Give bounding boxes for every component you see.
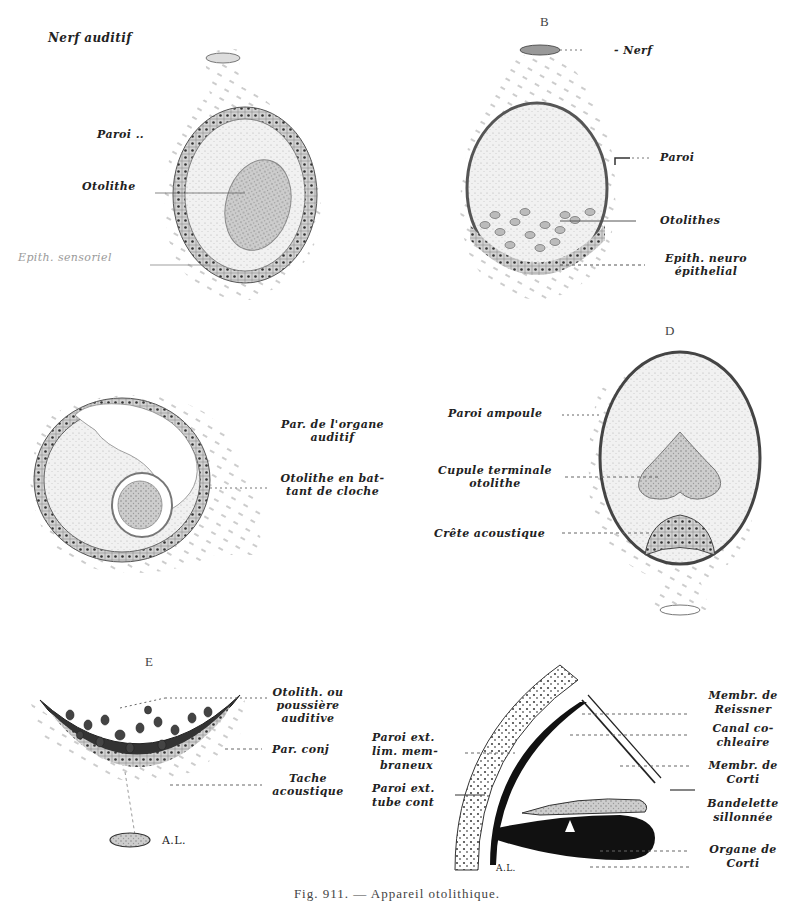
label-f-corti-organ-line1: Organe de	[692, 843, 794, 857]
label-d-crest: Crête acoustique	[434, 527, 545, 540]
label-f-outer-wall-tube-line1: Paroi ext.	[372, 782, 435, 796]
label-b-epithelium: Epith. neuro épithelial	[656, 252, 756, 278]
label-f-corti-organ: Organe de Corti	[692, 843, 794, 871]
label-e-macula: Tache acoustique	[268, 772, 348, 798]
label-f-canal-line2: chleaire	[692, 736, 794, 750]
label-f-outer-wall-membranous: Paroi ext. lim. mem- braneux	[372, 731, 438, 773]
label-a-epithelium: Epith. sensoriel	[18, 251, 112, 264]
label-e-otolith-line3: auditive	[268, 712, 348, 725]
label-d-cupula-line2: otolithe	[425, 477, 565, 490]
label-e-macula-line1: Tache	[268, 772, 348, 785]
label-b-epithelium-line2: épithelial	[656, 265, 756, 278]
label-b-epithelium-line1: Epith. neuro	[656, 252, 756, 265]
label-f-corti-membrane-line2: Corti	[692, 773, 794, 787]
label-f-band-line2: sillonnée	[692, 811, 794, 825]
label-b-nerve: - Nerf	[614, 44, 652, 57]
label-f-outer-wall-tube: Paroi ext. tube cont	[372, 782, 435, 810]
label-f-corti-membrane-line1: Membr. de	[692, 759, 794, 773]
panel-b-letter: B	[540, 14, 549, 30]
label-e-nerve-mark: A.L.	[162, 834, 186, 847]
figure-caption: Fig. 911. — Appareil otolithique.	[0, 886, 794, 902]
label-a-otolith: Otolithe	[82, 180, 136, 193]
label-f-corti-organ-line2: Corti	[692, 857, 794, 871]
panel-d-drawing	[562, 352, 760, 615]
label-f-band: Bandelette sillonnée	[692, 797, 794, 825]
label-c-otolith-line2: tant de cloche	[270, 485, 395, 498]
label-f-outer-wall-membranous-line2: lim. mem-	[372, 745, 438, 759]
label-f-mark: A.L.	[496, 862, 516, 875]
label-f-canal: Canal co- chleaire	[692, 722, 794, 750]
label-f-band-line1: Bandelette	[692, 797, 794, 811]
label-f-canal-line1: Canal co-	[692, 722, 794, 736]
label-b-wall: Paroi	[660, 151, 694, 164]
label-a-wall: Paroi ..	[97, 128, 144, 141]
label-c-wall: Par. de l'organe auditif	[270, 418, 395, 444]
label-f-reissner-line1: Membr. de	[692, 689, 794, 703]
label-e-otolith: Otolith. ou poussière auditive	[268, 686, 348, 725]
label-d-cupula-line1: Cupule terminale	[425, 464, 565, 477]
label-f-outer-wall-membranous-line3: braneux	[372, 759, 438, 773]
panel-e-letter: E	[145, 654, 153, 670]
label-e-otolith-line1: Otolith. ou	[268, 686, 348, 699]
label-e-otolith-line2: poussière	[268, 699, 348, 712]
panel-f-drawing	[455, 665, 695, 870]
panel-e-drawing	[30, 695, 268, 847]
label-d-ampulla-wall: Paroi ampoule	[448, 407, 542, 420]
label-c-otolith-line1: Otolithe en bat-	[270, 472, 395, 485]
panel-d-letter: D	[665, 323, 674, 339]
label-c-wall-line2: auditif	[270, 431, 395, 444]
label-f-corti-membrane: Membr. de Corti	[692, 759, 794, 787]
label-a-nerve: Nerf auditif	[48, 32, 132, 45]
label-f-reissner-line2: Reissner	[692, 703, 794, 717]
label-d-cupula: Cupule terminale otolithe	[425, 464, 565, 490]
panel-b-drawing	[460, 45, 652, 300]
label-c-otolith: Otolithe en bat- tant de cloche	[270, 472, 395, 498]
label-f-outer-wall-membranous-line1: Paroi ext.	[372, 731, 438, 745]
panel-c-drawing	[30, 395, 268, 573]
label-b-otoliths: Otolithes	[660, 214, 720, 227]
label-f-outer-wall-tube-line2: tube cont	[372, 796, 435, 810]
panel-a-drawing	[150, 49, 321, 300]
label-e-connective-wall: Par. conj	[272, 743, 329, 756]
label-e-macula-line2: acoustique	[268, 785, 348, 798]
label-c-wall-line1: Par. de l'organe	[270, 418, 395, 431]
label-f-reissner: Membr. de Reissner	[692, 689, 794, 717]
